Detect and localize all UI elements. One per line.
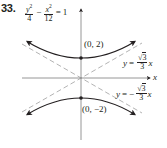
asymptote-lhs: y [116, 89, 120, 99]
sqrt3-over-3: √3 3 [136, 85, 146, 102]
equals-sign: = [56, 7, 61, 17]
rhs-value: 1 [63, 7, 68, 17]
asymptote-variable: x [148, 58, 152, 68]
equals-sign: = [129, 58, 134, 68]
x-axis-label: x [153, 72, 157, 82]
hyperbola-equation: y2 4 − x2 12 = 1 [24, 2, 67, 23]
term-x-squared-over-12: x2 12 [44, 2, 52, 23]
minus-operator: − [36, 7, 41, 17]
asymptote-negative-label: y = − √3 3 x [116, 85, 152, 102]
upper-vertex-point [79, 56, 83, 60]
denominator-12: 12 [45, 15, 53, 23]
sqrt-icon: √ [137, 84, 141, 93]
lower-vertex-label: (0, −2) [82, 104, 107, 114]
exponent: 2 [30, 3, 33, 9]
denominator: 3 [139, 94, 143, 102]
term-y-squared-over-4: y2 4 [25, 2, 33, 23]
lower-vertex-point [79, 96, 83, 100]
asymptote-lhs: y [123, 58, 127, 68]
asymptote-positive-label: y = √3 3 x [123, 54, 152, 71]
radicand: 3 [142, 52, 146, 62]
radicand: 3 [142, 83, 146, 93]
denominator-4: 4 [27, 15, 31, 23]
minus-sign: − [129, 89, 134, 99]
sqrt3-over-3: √3 3 [137, 54, 147, 71]
upper-vertex-label: (0, 2) [84, 39, 104, 49]
denominator: 3 [140, 63, 144, 71]
equals-sign: = [122, 89, 127, 99]
asymptote-variable: x [148, 89, 152, 99]
exponent: 2 [49, 3, 52, 9]
